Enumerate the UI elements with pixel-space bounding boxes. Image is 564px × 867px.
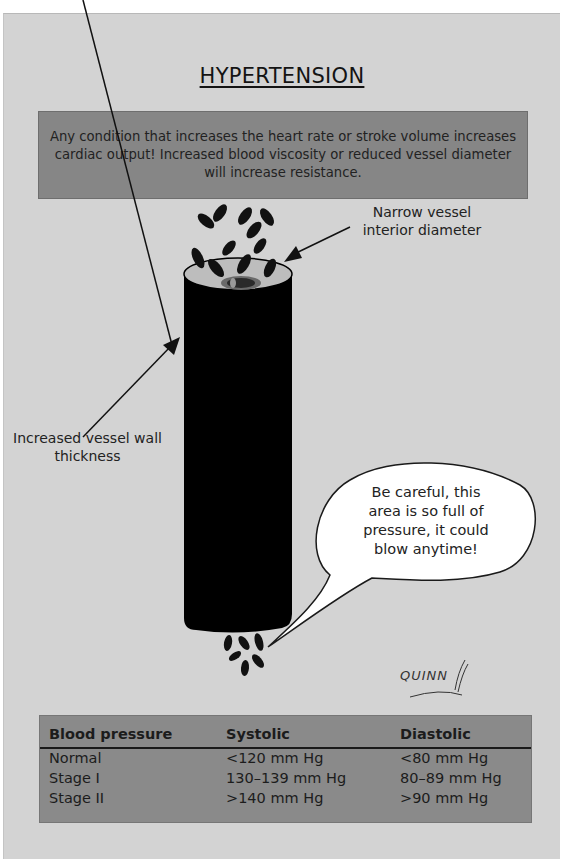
header-divider (40, 747, 531, 749)
table-row: Stage II >140 mm Hg >90 mm Hg (40, 790, 531, 809)
header-blood-pressure: Blood pressure (49, 726, 172, 742)
blood-vessel-icon (184, 258, 292, 633)
arrow-narrow-icon (284, 227, 350, 262)
table-header-row: Blood pressure Systolic Diastolic (40, 726, 531, 745)
blood-pressure-table: Blood pressure Systolic Diastolic Normal… (39, 715, 532, 823)
header-diastolic: Diastolic (400, 726, 471, 742)
row-category: Stage I (49, 770, 100, 786)
row-systolic: <120 mm Hg (226, 750, 323, 766)
row-category: Normal (49, 750, 101, 766)
header-systolic: Systolic (226, 726, 290, 742)
row-systolic: 130–139 mm Hg (226, 770, 346, 786)
row-diastolic: <80 mm Hg (400, 750, 488, 766)
speech-bubble-text: Be careful, this area is so full of pres… (357, 483, 495, 559)
table-row: Normal <120 mm Hg <80 mm Hg (40, 750, 531, 769)
wall-thickness-label: Increased vessel wall thickness (10, 429, 165, 465)
row-diastolic: 80–89 mm Hg (400, 770, 502, 786)
row-category: Stage II (49, 790, 104, 806)
arrow-wall-icon (83, 0, 180, 437)
row-diastolic: >90 mm Hg (400, 790, 488, 806)
table-row: Stage I 130–139 mm Hg 80–89 mm Hg (40, 770, 531, 789)
blood-cells-bottom-icon (223, 632, 267, 676)
artist-signature: QUINN (400, 668, 448, 683)
row-systolic: >140 mm Hg (226, 790, 323, 806)
narrow-vessel-label: Narrow vessel interior diameter (352, 203, 492, 239)
